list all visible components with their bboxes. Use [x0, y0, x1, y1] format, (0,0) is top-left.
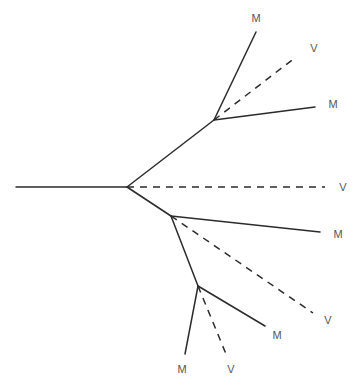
- branch-bottom-to-v: [198, 286, 226, 354]
- leaf-label: M: [272, 329, 281, 341]
- leaf-label: V: [227, 363, 235, 375]
- tree-edges: [16, 32, 325, 354]
- branch-lower-to-v: [171, 216, 313, 313]
- branch-root-to-upper: [127, 120, 214, 187]
- branch-bottom-to-m-right: [198, 286, 265, 326]
- leaf-label: M: [333, 228, 342, 240]
- tree-diagram: MVMVMVMMV: [0, 0, 361, 389]
- leaf-labels: MVMVMVMMV: [177, 12, 347, 375]
- branch-lower-to-bottom: [171, 216, 198, 286]
- leaf-label: M: [251, 12, 260, 24]
- branch-lower-to-m: [171, 216, 320, 232]
- branch-bottom-to-m-left: [185, 286, 198, 354]
- leaf-label: M: [177, 363, 186, 375]
- leaf-label: V: [339, 181, 347, 193]
- leaf-label: V: [324, 314, 332, 326]
- leaf-label: M: [328, 98, 337, 110]
- branch-root-to-lower: [127, 187, 171, 216]
- branch-upper-to-m-top: [214, 32, 256, 120]
- leaf-label: V: [310, 42, 318, 54]
